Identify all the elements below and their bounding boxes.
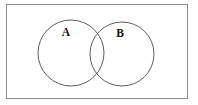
set-label-b: B [116,27,124,39]
venn-diagram-figure: A B [0,0,198,105]
set-circle-a [38,20,104,86]
diagram-frame [7,5,188,99]
set-label-a: A [62,26,71,38]
venn-diagram-canvas: A B [0,0,198,105]
